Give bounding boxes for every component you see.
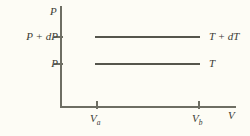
y-tick-label-p-plus-dp-text: P + dP <box>26 30 58 42</box>
x-tick-label-vb-base: V <box>192 112 199 124</box>
curve-label-t-plus-dt: T + dT <box>209 31 239 42</box>
x-tick-va <box>96 101 98 109</box>
curve-label-t: T <box>209 58 215 69</box>
x-tick-vb <box>198 101 200 109</box>
y-tick-label-p-plus-dp: P + dP <box>26 31 58 42</box>
isotherm-line-upper <box>95 36 200 38</box>
curve-label-t-plus-dt-text: T + dT <box>209 30 239 42</box>
isotherm-line-lower <box>95 63 200 65</box>
x-tick-label-vb: Vb <box>192 113 202 127</box>
x-tick-label-va-sub: a <box>97 118 101 127</box>
y-tick-label-p: P <box>51 58 58 69</box>
x-tick-label-va-base: V <box>90 112 97 124</box>
x-tick-label-vb-sub: b <box>199 118 203 127</box>
volume-axis-line <box>60 106 236 108</box>
pressure-axis-label: P <box>50 6 57 17</box>
volume-axis-label: V <box>228 110 235 121</box>
curve-label-t-text: T <box>209 57 215 69</box>
x-tick-label-va: Va <box>90 113 100 127</box>
y-tick-label-p-text: P <box>51 57 58 69</box>
pv-isotherm-diagram: P P + dP P T + dT T Va Vb V <box>0 0 250 136</box>
pressure-axis-line <box>60 6 62 108</box>
